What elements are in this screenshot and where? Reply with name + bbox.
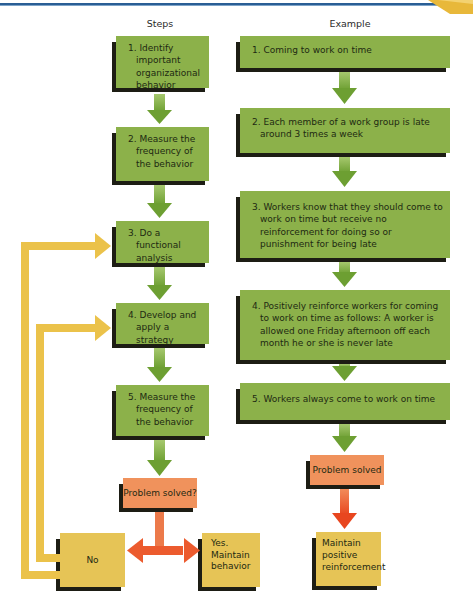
example-text: Workers always come to work on time <box>263 394 435 404</box>
step-box-4: 4. Develop and apply a strategy <box>116 303 209 344</box>
example-result-problem-solved: Problem solved <box>310 455 384 485</box>
steps-arrow-1-2 <box>147 94 172 124</box>
outcome-no-box: No <box>60 533 125 587</box>
outcome-yes-box: Yes. Maintain behavior <box>202 533 260 587</box>
example-arrow-1-2 <box>332 72 357 104</box>
example-text: Each member of a work group is late arou… <box>260 117 430 139</box>
example-number: 5. <box>252 394 261 404</box>
result-text: Problem solved <box>313 464 382 476</box>
feedback-arrow-to-step-4 <box>36 315 111 562</box>
steps-arrow-5-decision <box>147 440 172 476</box>
example-number: 4. <box>252 301 261 311</box>
step-text: Do a functional analysis <box>136 228 181 263</box>
step-number: 4. <box>128 310 137 320</box>
no-label: No <box>86 554 98 566</box>
step-box-3: 3. Do a functional analysis <box>116 221 209 263</box>
feedback-arrow-to-step-3 <box>21 233 111 579</box>
step-box-1: 1. Identify important organizational beh… <box>116 36 209 88</box>
example-text: Coming to work on time <box>263 45 371 55</box>
decision-split-arrow <box>127 512 200 563</box>
step-box-2: 2. Measure the frequency of the behavior <box>116 127 209 181</box>
example-arrow-3-4 <box>332 262 357 287</box>
step-number: 1. <box>128 43 137 53</box>
steps-arrow-2-3 <box>147 185 172 218</box>
example-text: Workers know that they should come to wo… <box>260 202 443 249</box>
action-text: Maintain positive reinforcement <box>322 538 377 574</box>
step-number: 3. <box>128 228 137 238</box>
example-arrow-4-5 <box>332 364 357 381</box>
example-number: 1. <box>252 45 261 55</box>
example-text: Positively reinforce workers for coming … <box>260 301 438 348</box>
example-box-3: 3. Workers know that they should come to… <box>240 191 450 258</box>
step-text: Develop and apply a strategy <box>136 310 196 345</box>
decision-problem-solved-question: Problem solved? <box>123 478 197 508</box>
example-arrow-2-3 <box>332 157 357 187</box>
example-number: 2. <box>252 117 261 127</box>
decision-text: Problem solved? <box>123 487 197 499</box>
example-box-5: 5. Workers always come to work on time <box>240 383 450 420</box>
example-number: 3. <box>252 202 261 212</box>
steps-arrow-3-4 <box>147 267 172 300</box>
step-number: 5. <box>128 392 137 402</box>
step-text: Measure the frequency of the behavior <box>136 392 195 427</box>
example-action-maintain: Maintain positive reinforcement <box>316 532 381 586</box>
steps-arrow-4-5 <box>147 348 172 382</box>
example-box-4: 4. Positively reinforce workers for comi… <box>240 290 450 360</box>
step-box-5: 5. Measure the frequency of the behavior <box>116 385 209 436</box>
step-number: 2. <box>128 134 137 144</box>
yes-label: Yes. Maintain behavior <box>211 538 256 573</box>
example-box-2: 2. Each member of a work group is late a… <box>240 108 450 153</box>
example-box-1: 1. Coming to work on time <box>240 36 450 68</box>
example-arrow-5-result <box>332 424 357 452</box>
example-arrow-result-action <box>332 489 357 529</box>
step-text: Identify important organizational behavi… <box>136 43 200 90</box>
step-text: Measure the frequency of the behavior <box>136 134 195 169</box>
